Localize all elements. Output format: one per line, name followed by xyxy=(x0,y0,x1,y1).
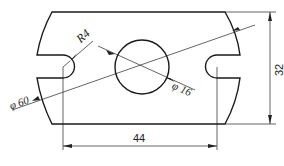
center-hole xyxy=(115,40,169,94)
part-outline xyxy=(37,12,240,124)
r4-radius-line xyxy=(63,61,70,67)
phi60-leader-line xyxy=(12,25,255,110)
phi60-arrow-left xyxy=(32,96,40,101)
height-arrow-top xyxy=(268,12,272,21)
height-arrow-bottom xyxy=(268,115,272,124)
phi16-arrow-top xyxy=(106,50,115,55)
width-arrow-right xyxy=(208,144,217,148)
width-label: 44 xyxy=(133,133,145,144)
r4-arrow xyxy=(70,53,77,61)
height-label: 32 xyxy=(274,64,284,76)
width-arrow-left xyxy=(63,144,72,148)
